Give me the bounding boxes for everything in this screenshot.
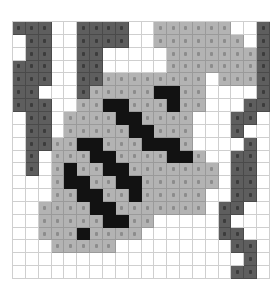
- grid-cell[interactable]: [257, 86, 270, 99]
- grid-cell[interactable]: [129, 176, 142, 189]
- grid-cell[interactable]: [219, 73, 232, 86]
- grid-cell[interactable]: [167, 112, 180, 125]
- grid-cell[interactable]: [206, 22, 219, 35]
- grid-cell[interactable]: [13, 35, 26, 48]
- grid-cell[interactable]: [129, 202, 142, 215]
- grid-cell[interactable]: [39, 22, 52, 35]
- grid-cell[interactable]: [206, 253, 219, 266]
- grid-cell[interactable]: [219, 86, 232, 99]
- grid-cell[interactable]: [206, 99, 219, 112]
- grid-cell[interactable]: [13, 138, 26, 151]
- grid-cell[interactable]: [39, 176, 52, 189]
- grid-cell[interactable]: [64, 151, 77, 164]
- grid-cell[interactable]: [257, 138, 270, 151]
- grid-cell[interactable]: [193, 125, 206, 138]
- grid-cell[interactable]: [13, 215, 26, 228]
- grid-cell[interactable]: [13, 163, 26, 176]
- grid-cell[interactable]: [219, 163, 232, 176]
- grid-cell[interactable]: [231, 73, 244, 86]
- grid-cell[interactable]: [103, 176, 116, 189]
- grid-cell[interactable]: [103, 112, 116, 125]
- grid-cell[interactable]: [39, 240, 52, 253]
- grid-cell[interactable]: [90, 151, 103, 164]
- grid-cell[interactable]: [180, 240, 193, 253]
- grid-cell[interactable]: [129, 240, 142, 253]
- grid-cell[interactable]: [64, 125, 77, 138]
- grid-cell[interactable]: [180, 202, 193, 215]
- grid-cell[interactable]: [26, 163, 39, 176]
- grid-cell[interactable]: [64, 163, 77, 176]
- grid-cell[interactable]: [13, 189, 26, 202]
- grid-cell[interactable]: [26, 86, 39, 99]
- grid-cell[interactable]: [90, 240, 103, 253]
- grid-cell[interactable]: [180, 176, 193, 189]
- grid-cell[interactable]: [206, 240, 219, 253]
- grid-cell[interactable]: [26, 266, 39, 279]
- grid-cell[interactable]: [64, 112, 77, 125]
- grid-cell[interactable]: [116, 35, 129, 48]
- grid-cell[interactable]: [13, 22, 26, 35]
- grid-cell[interactable]: [26, 215, 39, 228]
- grid-cell[interactable]: [129, 215, 142, 228]
- grid-cell[interactable]: [154, 48, 167, 61]
- grid-cell[interactable]: [13, 112, 26, 125]
- grid-cell[interactable]: [193, 99, 206, 112]
- grid-cell[interactable]: [219, 202, 232, 215]
- grid-cell[interactable]: [154, 228, 167, 241]
- grid-cell[interactable]: [206, 138, 219, 151]
- grid-cell[interactable]: [77, 215, 90, 228]
- grid-cell[interactable]: [142, 99, 155, 112]
- grid-cell[interactable]: [129, 163, 142, 176]
- grid-cell[interactable]: [103, 86, 116, 99]
- grid-cell[interactable]: [26, 48, 39, 61]
- grid-cell[interactable]: [52, 176, 65, 189]
- grid-cell[interactable]: [180, 99, 193, 112]
- grid-cell[interactable]: [154, 151, 167, 164]
- grid-cell[interactable]: [206, 61, 219, 74]
- grid-cell[interactable]: [180, 22, 193, 35]
- grid-cell[interactable]: [129, 228, 142, 241]
- grid-cell[interactable]: [193, 73, 206, 86]
- grid-cell[interactable]: [244, 86, 257, 99]
- grid-cell[interactable]: [13, 228, 26, 241]
- grid-cell[interactable]: [193, 253, 206, 266]
- grid-cell[interactable]: [231, 99, 244, 112]
- grid-cell[interactable]: [206, 228, 219, 241]
- grid-cell[interactable]: [77, 202, 90, 215]
- grid-cell[interactable]: [52, 86, 65, 99]
- grid-cell[interactable]: [52, 215, 65, 228]
- grid-cell[interactable]: [13, 176, 26, 189]
- grid-cell[interactable]: [142, 228, 155, 241]
- grid-cell[interactable]: [13, 99, 26, 112]
- grid-cell[interactable]: [231, 125, 244, 138]
- grid-cell[interactable]: [219, 61, 232, 74]
- grid-cell[interactable]: [244, 61, 257, 74]
- grid-cell[interactable]: [129, 138, 142, 151]
- grid-cell[interactable]: [154, 253, 167, 266]
- grid-cell[interactable]: [244, 125, 257, 138]
- grid-cell[interactable]: [142, 48, 155, 61]
- grid-cell[interactable]: [231, 202, 244, 215]
- grid-cell[interactable]: [103, 163, 116, 176]
- grid-cell[interactable]: [26, 189, 39, 202]
- grid-cell[interactable]: [244, 215, 257, 228]
- grid-cell[interactable]: [193, 266, 206, 279]
- grid-cell[interactable]: [39, 151, 52, 164]
- grid-cell[interactable]: [142, 240, 155, 253]
- grid-cell[interactable]: [244, 253, 257, 266]
- grid-cell[interactable]: [64, 215, 77, 228]
- grid-cell[interactable]: [219, 112, 232, 125]
- grid-cell[interactable]: [116, 151, 129, 164]
- grid-cell[interactable]: [52, 163, 65, 176]
- grid-cell[interactable]: [244, 48, 257, 61]
- grid-cell[interactable]: [13, 73, 26, 86]
- grid-cell[interactable]: [64, 253, 77, 266]
- grid-cell[interactable]: [257, 176, 270, 189]
- grid-cell[interactable]: [103, 125, 116, 138]
- grid-cell[interactable]: [193, 138, 206, 151]
- grid-cell[interactable]: [244, 176, 257, 189]
- grid-cell[interactable]: [244, 151, 257, 164]
- grid-cell[interactable]: [90, 253, 103, 266]
- grid-cell[interactable]: [167, 253, 180, 266]
- grid-cell[interactable]: [77, 112, 90, 125]
